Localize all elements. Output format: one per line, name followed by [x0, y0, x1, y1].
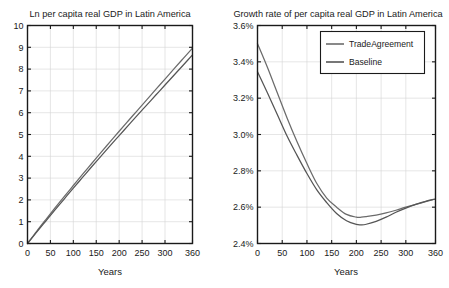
y-tick-label: 2 — [18, 195, 23, 205]
x-tick-label: 100 — [66, 248, 81, 258]
x-tick-label: 360 — [185, 248, 200, 258]
chart-legend: TradeAgreement Baseline — [321, 32, 425, 74]
x-tick-label: 50 — [277, 248, 287, 258]
x-tick-label: 300 — [398, 248, 413, 258]
y-tick-label: 2.4% — [233, 239, 254, 249]
y-tick-label: 8 — [18, 64, 23, 74]
x-tick-label: 150 — [324, 248, 339, 258]
left-x-tick-labels: 050100150200250300360 — [25, 248, 200, 258]
y-tick-label: 5 — [18, 130, 23, 140]
right-x-tick-labels: 050100150200250300360 — [255, 248, 443, 258]
x-tick-label: 300 — [157, 248, 172, 258]
right-x-axis-label: Years — [334, 266, 358, 277]
left-y-tick-labels: 012345678910 — [13, 21, 23, 249]
y-tick-label: 10 — [13, 21, 23, 31]
x-tick-label: 100 — [299, 248, 314, 258]
y-tick-label: 4 — [18, 152, 23, 162]
y-tick-label: 2.6% — [233, 202, 254, 212]
y-tick-label: 0 — [18, 239, 23, 249]
series-line-baseline — [258, 72, 436, 225]
right-y-tick-labels: 2.4%2.6%2.8%3.0%3.2%3.4%3.6% — [233, 21, 254, 249]
x-tick-label: 50 — [45, 248, 55, 258]
left-series-group — [28, 48, 193, 243]
y-tick-label: 2.8% — [233, 166, 254, 176]
y-tick-label: 7 — [18, 86, 23, 96]
y-tick-label: 3.2% — [233, 93, 254, 103]
x-tick-label: 150 — [89, 248, 104, 258]
left-chart-svg: Ln per capita real GDP in Latin America … — [0, 0, 224, 288]
x-tick-label: 200 — [349, 248, 364, 258]
x-tick-label: 200 — [112, 248, 127, 258]
right-chart-svg: Growth rate of per capita real GDP in La… — [224, 0, 449, 288]
x-tick-label: 360 — [428, 248, 443, 258]
left-x-axis-label: Years — [98, 266, 122, 277]
y-tick-label: 3 — [18, 173, 23, 183]
y-tick-label: 3.4% — [233, 57, 254, 67]
left-chart-title: Ln per capita real GDP in Latin America — [29, 9, 191, 19]
figure-container: Ln per capita real GDP in Latin America … — [0, 0, 449, 288]
y-tick-label: 6 — [18, 108, 23, 118]
legend-label-baseline: Baseline — [349, 57, 382, 67]
chart-panel-right: Growth rate of per capita real GDP in La… — [224, 0, 448, 288]
x-tick-label: 250 — [374, 248, 389, 258]
y-tick-label: 3.0% — [233, 130, 254, 140]
x-tick-label: 250 — [135, 248, 150, 258]
chart-panel-left: Ln per capita real GDP in Latin America … — [0, 0, 224, 288]
series-line-baseline — [28, 55, 193, 244]
right-chart-title: Growth rate of per capita real GDP in La… — [233, 9, 443, 19]
x-tick-label: 0 — [255, 248, 260, 258]
legend-label-tradeagreement: TradeAgreement — [349, 39, 414, 49]
x-tick-label: 0 — [25, 248, 30, 258]
y-tick-label: 1 — [18, 217, 23, 227]
legend-box — [321, 32, 425, 74]
y-tick-label: 9 — [18, 43, 23, 53]
y-tick-label: 3.6% — [233, 21, 254, 31]
